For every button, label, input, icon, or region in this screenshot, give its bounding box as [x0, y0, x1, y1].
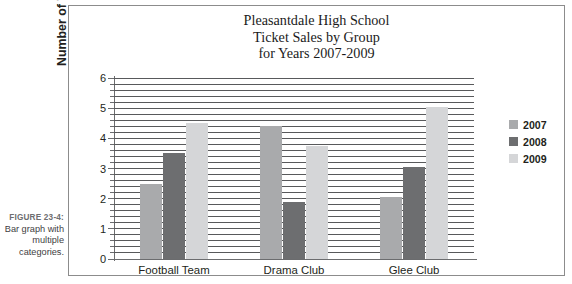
legend-label-2007: 2007: [523, 119, 547, 131]
chart-legend: 200720082009: [509, 116, 569, 167]
chart-title: Pleasantdale High School Ticket Sales by…: [69, 12, 564, 62]
gridline: [114, 78, 474, 79]
y-tick-label: 2: [78, 193, 106, 205]
y-tick-label: 4: [78, 132, 106, 144]
legend-item-2009[interactable]: 2009: [509, 150, 569, 167]
legend-swatch-2009: [509, 154, 518, 163]
bar-glee-club-2009: [426, 107, 448, 259]
gridline: [114, 138, 474, 139]
gridline: [114, 84, 474, 85]
bar-glee-club-2007: [380, 197, 402, 259]
figure-caption-text: Bar graph with multiple categories.: [0, 224, 64, 259]
bar-drama-club-2007: [260, 126, 282, 259]
bar-football-team-2008: [163, 153, 185, 259]
legend-label-2009: 2009: [523, 153, 547, 165]
gridline: [114, 150, 474, 151]
gridline: [114, 132, 474, 133]
y-tick-label: 1: [78, 223, 106, 235]
chart-figure-frame: Pleasantdale High School Ticket Sales by…: [68, 5, 565, 276]
x-label-glee-club: Glee Club: [354, 264, 474, 276]
bar-football-team-2009: [186, 123, 208, 259]
bar-drama-club-2009: [306, 146, 328, 259]
legend-item-2007[interactable]: 2007: [509, 116, 569, 133]
gridline: [114, 126, 474, 127]
chart-title-line-3: for Years 2007-2009: [69, 45, 564, 62]
legend-swatch-2008: [509, 137, 518, 146]
chart-title-line-1: Pleasantdale High School: [69, 12, 564, 29]
figure-caption: FIGURE 23-4: Bar graph with multiple cat…: [0, 212, 64, 258]
plot-inner: [114, 78, 474, 259]
y-tick-label: 0: [78, 253, 106, 265]
gridline: [114, 120, 474, 121]
gridline: [114, 108, 474, 109]
y-axis-title: Number of Tickets in Thousands: [55, 0, 69, 66]
x-label-drama-club: Drama Club: [234, 264, 354, 276]
y-tick-label: 3: [78, 163, 106, 175]
x-axis-line: [109, 259, 477, 260]
plot-area: [114, 78, 474, 259]
y-tick-label: 6: [78, 72, 106, 84]
bar-drama-club-2008: [283, 202, 305, 259]
gridline: [114, 144, 474, 145]
gridline: [114, 102, 474, 103]
gridline: [114, 114, 474, 115]
figure-number: FIGURE 23-4:: [0, 212, 64, 224]
gridline: [114, 96, 474, 97]
x-label-football-team: Football Team: [114, 264, 234, 276]
bar-football-team-2007: [140, 184, 162, 259]
chart-title-line-2: Ticket Sales by Group: [69, 29, 564, 46]
bar-glee-club-2008: [403, 167, 425, 259]
legend-item-2008[interactable]: 2008: [509, 133, 569, 150]
gridline: [114, 90, 474, 91]
y-tick-label: 5: [78, 102, 106, 114]
legend-label-2008: 2008: [523, 136, 547, 148]
legend-swatch-2007: [509, 120, 518, 129]
